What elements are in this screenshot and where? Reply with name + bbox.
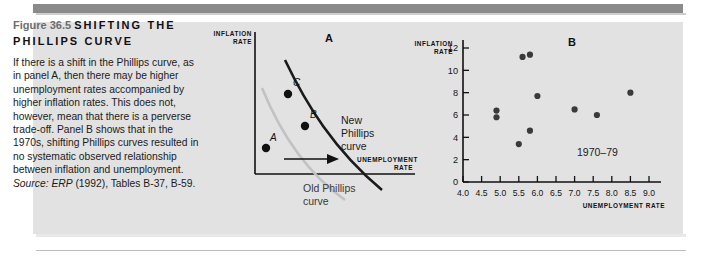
figure-body-text: If there is a shift in the Phillips curv…: [13, 56, 199, 177]
top-divider-shadow: [36, 13, 686, 15]
panel-b-x-axis-label: UNEMPLOYMENT RATE: [573, 202, 665, 210]
top-divider-rule: [33, 4, 683, 13]
panel-b-y-tick-label: 0: [453, 177, 458, 187]
panel-b-x-tick-label: 4.5: [476, 188, 488, 198]
panel-b-x-tick-label: 9.0: [643, 188, 655, 198]
panel-b-x-tick-label: 5.0: [494, 188, 506, 198]
panel-a: INFLATION RATE A A B C New Phillips curv…: [200, 22, 415, 234]
panel-a-point-b: [301, 122, 309, 130]
panel-b-letter: B: [568, 36, 576, 48]
panel-a-point-a: [262, 144, 270, 152]
panel-b-annotation: 1970–79: [577, 146, 618, 158]
panel-b-y-tick-label: 6: [453, 110, 458, 120]
panel-a-letter: A: [325, 32, 333, 44]
panel-b-x-tick-label: 7.5: [587, 188, 599, 198]
panel-b-data-point: [527, 128, 533, 134]
panel-b-y-tick-label: 10: [448, 66, 458, 76]
panel-a-y-axis-label: INFLATION RATE: [204, 30, 252, 46]
panel-a-point-c: [284, 90, 292, 98]
panel-b-x-tick-label: 5.5: [513, 188, 525, 198]
panel-b-y-tick-label: 2: [453, 155, 458, 165]
panel-b-x-tick-label: 8.5: [624, 188, 636, 198]
shift-arrow-head: [327, 154, 339, 164]
figure-heading: Figure 36.5 SHIFTING THE PHILLIPS CURVE: [13, 17, 199, 49]
source-prefix: Source:: [13, 178, 49, 189]
panel-b-data-point: [493, 114, 499, 120]
bottom-divider-rule: [36, 250, 686, 251]
panel-b-y-tick-label: 8: [453, 88, 458, 98]
panel-b-y-axis-label: INFLATION RATE: [405, 40, 453, 56]
panel-b-data-point: [627, 90, 633, 96]
panel-b-data-point: [534, 93, 540, 99]
figure-panel-shadow: [36, 234, 686, 237]
figure-number: Figure 36.5: [13, 19, 71, 31]
figure-page: Figure 36.5 SHIFTING THE PHILLIPS CURVE …: [0, 0, 716, 260]
panel-b-data-point: [493, 107, 499, 113]
figure-source: Source: ERP (1992), Tables B-37, B-59.: [13, 177, 199, 190]
figure-caption: Figure 36.5 SHIFTING THE PHILLIPS CURVE …: [13, 17, 199, 190]
source-detail: (1992), Tables B-37, B-59.: [73, 178, 196, 189]
panel-a-point-c-label: C: [293, 77, 300, 88]
source-publication: ERP: [51, 178, 72, 189]
panel-b-data-point: [519, 54, 525, 60]
panel-b-x-tick-label: 7.0: [569, 188, 581, 198]
panel-b-data-point: [594, 112, 600, 118]
panel-b-x-tick-label: 8.0: [606, 188, 618, 198]
panel-a-point-a-label: A: [270, 132, 277, 143]
panel-b-x-tick-label: 4.0: [457, 188, 469, 198]
new-phillips-curve-label: New Phillips curve: [341, 114, 397, 153]
panel-b-data-point: [572, 106, 578, 112]
panel-b-y-tick-label: 4: [453, 133, 458, 143]
panel-b-data-point: [516, 141, 522, 147]
panel-b: INFLATION RATE B 0246810124.04.55.05.56.…: [405, 22, 705, 234]
panel-b-x-tick-label: 6.5: [550, 188, 562, 198]
old-phillips-curve-label: Old Phillips curve: [303, 182, 359, 208]
panel-b-x-tick-label: 6.0: [531, 188, 543, 198]
panel-a-point-b-label: B: [310, 109, 317, 120]
panel-b-data-point: [527, 52, 533, 58]
